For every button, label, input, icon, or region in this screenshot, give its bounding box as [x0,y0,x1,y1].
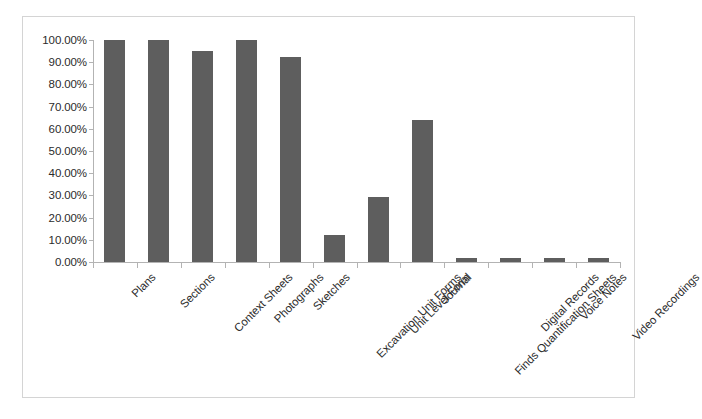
bar [368,197,389,262]
y-axis-tick-label: 60.00% [49,123,87,135]
x-axis-tick-mark [444,263,445,268]
x-axis-tick-mark [181,263,182,268]
x-axis-tick-mark [357,263,358,268]
y-axis-tick-label: 80.00% [49,78,87,90]
bar [456,258,477,262]
x-axis-tick-mark [400,263,401,268]
x-axis-tick-label: Video Recordings [630,271,701,342]
chart-frame: 0.00%10.00%20.00%30.00%40.00%50.00%60.00… [22,16,635,398]
y-axis: 0.00%10.00%20.00%30.00%40.00%50.00%60.00… [23,17,87,399]
x-axis-tick-label: Photographs [271,271,325,325]
bar [544,258,565,262]
x-axis-tick-mark [269,263,270,268]
x-axis-tick-mark [576,263,577,268]
y-axis-tick-label: 30.00% [49,189,87,201]
y-axis-tick-label: 70.00% [49,101,87,113]
x-axis-tick-mark [620,263,621,268]
bar [324,235,345,262]
bar [104,40,125,262]
bar [236,40,257,262]
x-axis-tick-label: Unit Level Form [408,271,473,336]
x-axis-tick-label: Plans [129,271,157,299]
y-axis-tick-label: 90.00% [49,56,87,68]
x-axis-tick-label: Journal [439,271,474,306]
y-axis-tick-label: 50.00% [49,145,87,157]
x-axis-tick-label: Excavation Unit Forms [374,271,463,360]
y-axis-tick-label: 20.00% [49,212,87,224]
bar [588,258,609,262]
y-axis-tick-label: 100.00% [42,34,87,46]
x-axis-tick-mark [225,263,226,268]
y-axis-tick-label: 40.00% [49,167,87,179]
x-axis-tick-label: Finds Quantification Sheets [513,271,619,377]
bar [148,40,169,262]
y-axis-tick-label: 0.00% [55,256,87,268]
y-axis-tick-label: 10.00% [49,234,87,246]
x-axis-tick-mark [313,263,314,268]
x-axis-tick-label: Digital Records [539,271,602,334]
plot-area [93,40,620,262]
x-axis-tick-mark [488,263,489,268]
x-axis-tick-label: Sections [178,271,217,310]
bar [280,57,301,262]
bar [192,51,213,262]
x-axis-tick-label: Context Sheets [231,271,294,334]
x-axis-tick-label: Voice Notes [578,271,629,322]
bar [412,120,433,262]
x-axis-tick-label: Sketches [310,271,351,312]
bar [500,258,521,262]
x-axis-tick-mark [93,263,94,268]
x-axis-tick-mark [137,263,138,268]
x-axis-tick-mark [532,263,533,268]
